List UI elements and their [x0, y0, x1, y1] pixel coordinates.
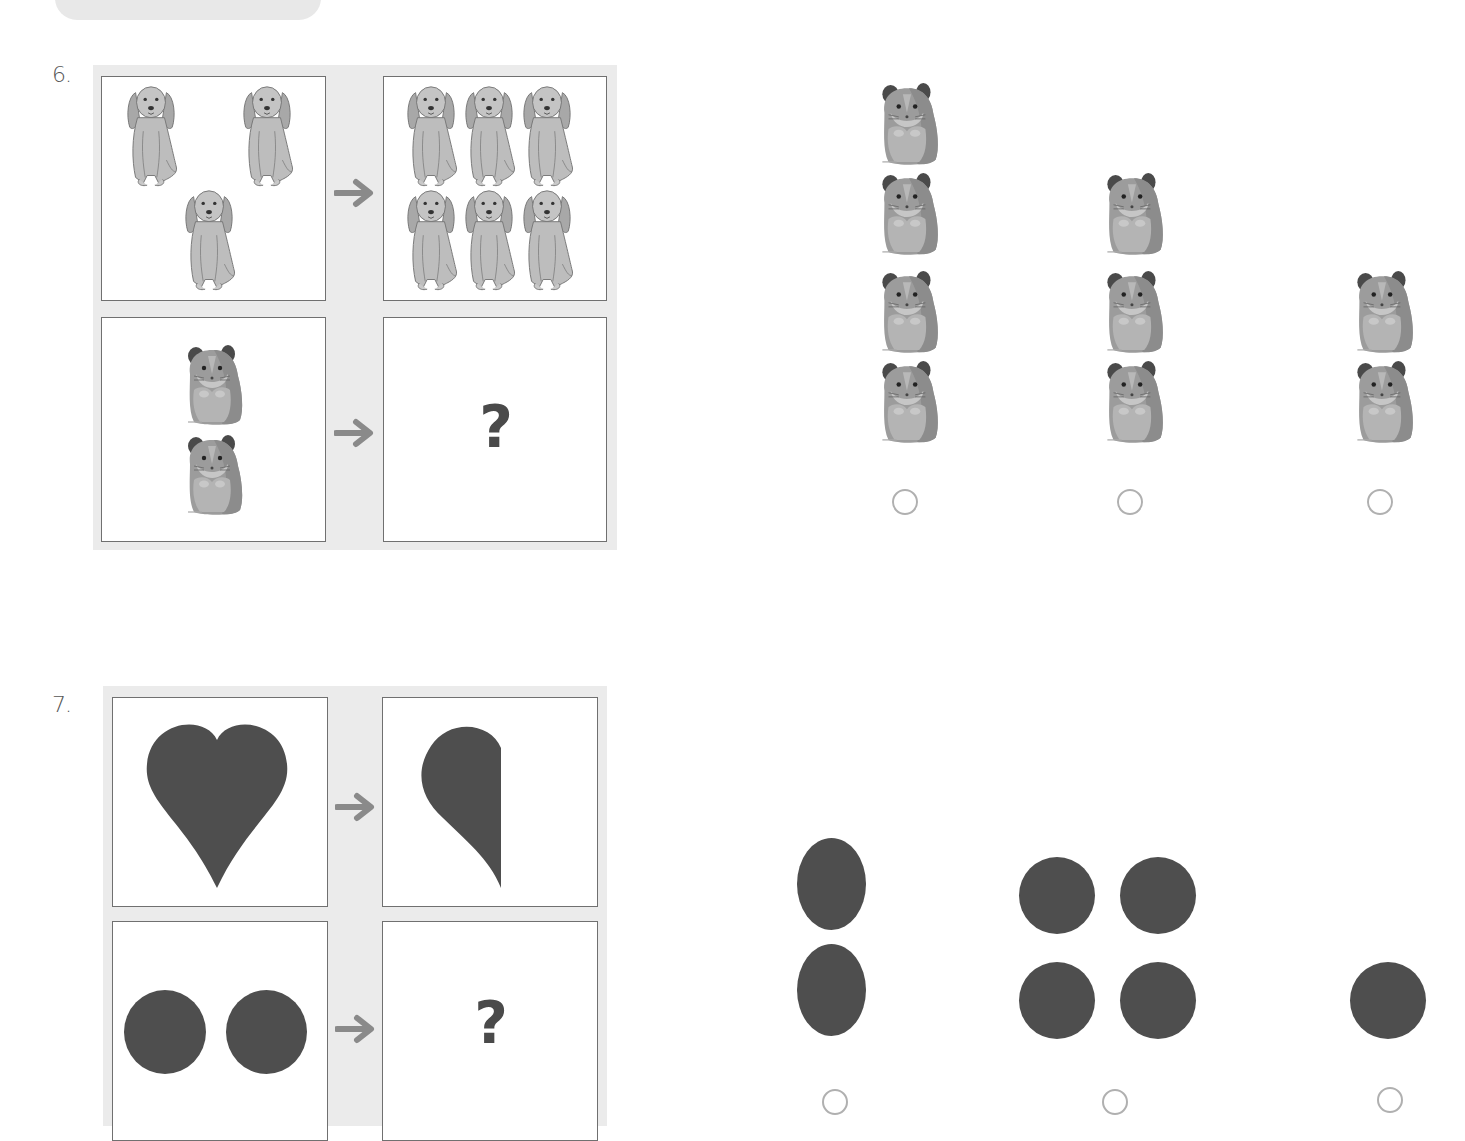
question-mark: ?: [383, 994, 598, 1052]
q6-option-a[interactable]: [878, 80, 942, 445]
arrow-right-icon: [335, 792, 377, 822]
q7-option-b[interactable]: [1017, 855, 1199, 1041]
q7-option-a-radio[interactable]: [822, 1089, 848, 1115]
q6-cell-top-right: [383, 76, 607, 301]
question-mark: ?: [384, 398, 607, 456]
hamster-image: [1353, 270, 1415, 354]
q6-option-b-radio[interactable]: [1117, 489, 1143, 515]
hamster-image: [1353, 360, 1415, 444]
q6-option-a-radio[interactable]: [892, 489, 918, 515]
q7-cell-bottom-right: ?: [382, 921, 598, 1141]
hamster-image: [184, 344, 244, 426]
hamster-image: [1103, 172, 1165, 256]
dog-image: [122, 83, 180, 189]
hamster-image: [184, 434, 244, 516]
q7-option-b-radio[interactable]: [1102, 1089, 1128, 1115]
dog-image: [460, 83, 518, 189]
hamster-image: [878, 172, 940, 256]
arrow-right-icon: [334, 178, 376, 208]
question-7-number: 7.: [52, 692, 71, 717]
circle-shape: [226, 990, 307, 1074]
dog-image: [460, 187, 518, 293]
q6-option-c[interactable]: [1353, 268, 1417, 445]
q7-option-c-radio[interactable]: [1377, 1087, 1403, 1113]
q7-option-a[interactable]: [796, 836, 868, 1038]
oval-shape: [797, 944, 866, 1036]
question-6-number: 6.: [52, 62, 71, 87]
hamster-image: [878, 360, 940, 444]
question-7-pattern-panel: ?: [103, 686, 607, 1126]
q7-cell-top-left: [112, 697, 328, 907]
q6-cell-bottom-right: ?: [383, 317, 607, 542]
dog-image: [238, 83, 296, 189]
oval-shape: [797, 838, 866, 930]
arrow-right-icon: [335, 1014, 377, 1044]
circle-shape: [124, 990, 206, 1074]
q6-cell-bottom-left: [101, 317, 326, 542]
q6-option-c-radio[interactable]: [1367, 489, 1393, 515]
q6-option-b[interactable]: [1103, 170, 1167, 445]
circle-shape: [1350, 962, 1426, 1039]
dog-image: [518, 187, 576, 293]
circle-shape: [1120, 962, 1196, 1039]
dog-image: [402, 187, 460, 293]
half-heart-shape: [413, 718, 503, 890]
circle-shape: [1120, 857, 1196, 934]
heart-shape: [129, 716, 305, 892]
dog-image: [402, 83, 460, 189]
q6-cell-top-left: [101, 76, 326, 301]
question-6-pattern-panel: ?: [93, 65, 617, 550]
hamster-image: [878, 270, 940, 354]
arrow-right-icon: [334, 418, 376, 448]
header-tab: [55, 0, 321, 20]
circle-shape: [1019, 962, 1095, 1039]
circle-shape: [1019, 857, 1095, 934]
q7-cell-bottom-left: [112, 921, 328, 1141]
hamster-image: [1103, 270, 1165, 354]
hamster-image: [1103, 360, 1165, 444]
hamster-image: [878, 82, 940, 166]
dog-image: [180, 187, 238, 293]
dog-image: [518, 83, 576, 189]
q7-cell-top-right: [382, 697, 598, 907]
q7-option-c[interactable]: [1348, 960, 1428, 1042]
